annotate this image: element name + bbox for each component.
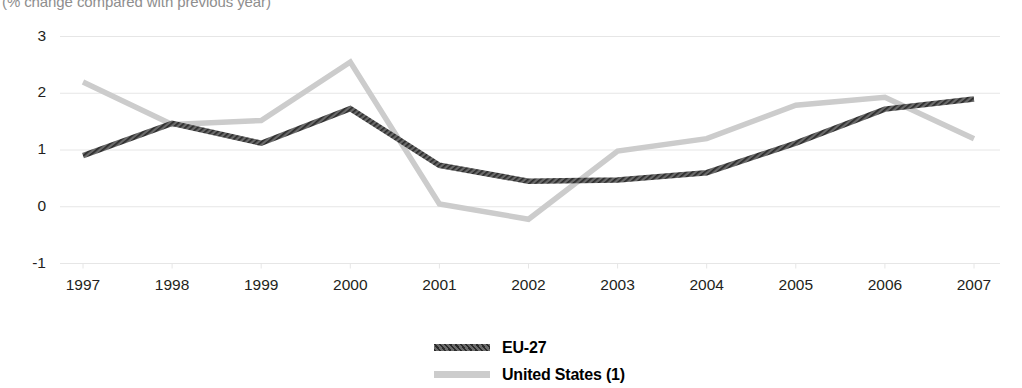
legend-item-eu-27: EU-27: [0, 334, 1022, 361]
x-axis-tick-label: 2002: [489, 276, 569, 294]
y-axis-tick-label: 2: [0, 83, 46, 101]
y-axis-tick-label: 0: [0, 197, 46, 215]
x-axis-tick-label: 1998: [132, 276, 212, 294]
x-axis-tick-label: 2001: [399, 276, 479, 294]
series-line-eu-27: [83, 99, 974, 181]
chart-legend: EU-27 United States (1): [0, 334, 1022, 388]
legend-item-united-states: United States (1): [0, 361, 1022, 388]
y-axis-tick-label: -1: [0, 254, 46, 272]
legend-swatch-eu-27: [434, 344, 490, 351]
legend-label-united-states: United States (1): [502, 366, 625, 384]
series-lines: [83, 62, 974, 219]
x-axis-tick-label: 2006: [845, 276, 925, 294]
legend-label-eu-27: EU-27: [502, 339, 546, 357]
series-line-united-states-1: [83, 62, 974, 219]
x-axis-tick-label: 1997: [43, 276, 123, 294]
x-axis-tick-label: 2003: [578, 276, 658, 294]
x-axis-tick-label: 2004: [667, 276, 747, 294]
y-axis-tick-label: 3: [0, 27, 46, 45]
gridlines: [60, 37, 1000, 269]
x-axis-tick-label: 2000: [310, 276, 390, 294]
productivity-growth-line-chart: (% change compared with previous year) 3…: [0, 0, 1022, 388]
x-axis-tick-label: 2007: [934, 276, 1014, 294]
x-axis-tick-label: 2005: [756, 276, 836, 294]
y-axis-tick-label: 1: [0, 140, 46, 158]
legend-swatch-united-states: [434, 371, 490, 378]
x-axis-tick-label: 1999: [221, 276, 301, 294]
